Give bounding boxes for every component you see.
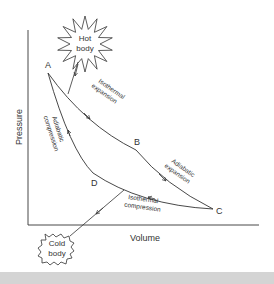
point-d-label: D bbox=[91, 178, 98, 188]
cold-body-label-line2: body bbox=[48, 249, 65, 258]
point-a-label: A bbox=[45, 60, 51, 70]
heat-out-arrowhead bbox=[96, 208, 103, 214]
label-isothermal-compression: Isothermal compression bbox=[124, 193, 163, 214]
label-adiabatic-compression: Adiabatic compression bbox=[42, 112, 69, 152]
hot-body-label-line2: body bbox=[76, 44, 93, 53]
point-b-label: B bbox=[134, 137, 140, 147]
bottom-gray-band bbox=[0, 272, 274, 284]
point-c-label: C bbox=[216, 206, 223, 216]
x-axis-label: Volume bbox=[130, 233, 160, 243]
arrow-ab bbox=[84, 113, 90, 119]
arrow-bc bbox=[159, 174, 166, 181]
hot-body-label-line1: Hot bbox=[79, 34, 92, 43]
carnot-cycle-diagram: Pressure Volume A B C D Isothermal expan… bbox=[0, 0, 274, 284]
y-axis-label: Pressure bbox=[14, 109, 24, 145]
cold-body-label-line1: Cold bbox=[49, 239, 65, 248]
label-isothermal-expansion: Isothermal expansion bbox=[90, 75, 127, 108]
